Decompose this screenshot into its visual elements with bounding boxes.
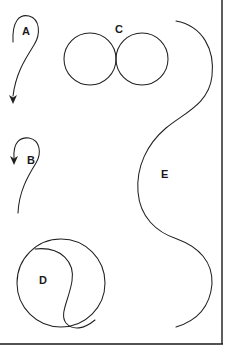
shape-label-a: A bbox=[22, 26, 30, 37]
curve-b-path bbox=[14, 138, 39, 213]
shape-label-c: C bbox=[115, 24, 123, 35]
figure-frame bbox=[0, 0, 223, 344]
circle-c-left bbox=[64, 33, 116, 85]
shape-d-group bbox=[17, 239, 105, 328]
shape-label-b: B bbox=[27, 155, 35, 166]
figure-container: A B C D E bbox=[0, 0, 235, 359]
shape-e-group bbox=[138, 21, 213, 327]
shape-c-group bbox=[64, 33, 168, 85]
figure-canvas bbox=[0, 0, 235, 359]
curve-d-inner-s-path bbox=[35, 249, 95, 328]
curve-e-path bbox=[138, 21, 213, 327]
shape-b-group bbox=[10, 138, 39, 213]
circle-c-right bbox=[116, 33, 168, 85]
circle-d-outer bbox=[17, 239, 105, 327]
shape-label-e: E bbox=[161, 169, 168, 180]
shape-label-d: D bbox=[39, 275, 47, 286]
